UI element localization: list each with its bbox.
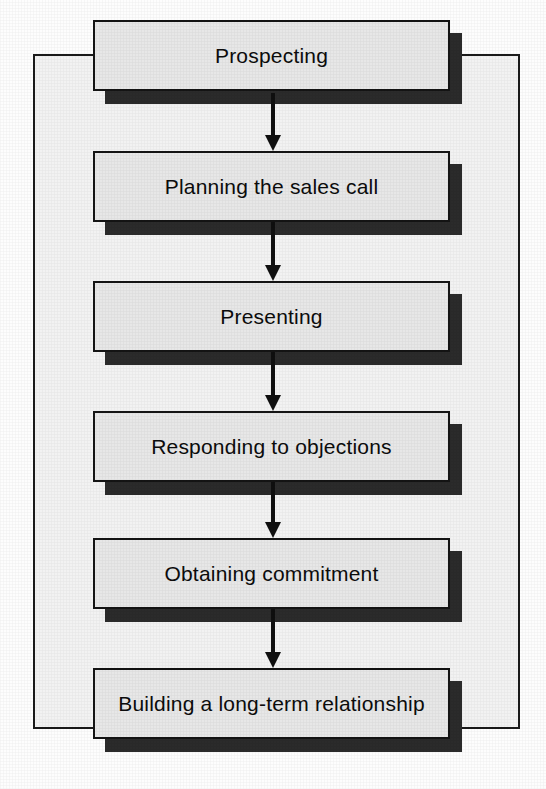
arrow-head — [265, 652, 281, 668]
down-arrow-icon — [265, 609, 281, 668]
step-label: Responding to objections — [151, 435, 392, 459]
arrow-shaft — [271, 482, 275, 524]
step-label: Planning the sales call — [165, 175, 379, 199]
process-step-responding-to-objections[interactable]: Responding to objections — [93, 411, 450, 482]
process-step-building-a-long-term-relationship[interactable]: Building a long-term relationship — [93, 668, 450, 739]
arrow-head — [265, 135, 281, 151]
step-box[interactable]: Responding to objections — [93, 411, 450, 482]
down-arrow-icon — [265, 93, 281, 151]
step-label: Building a long-term relationship — [118, 692, 425, 716]
step-label: Presenting — [220, 305, 322, 329]
arrow-head — [265, 522, 281, 538]
process-step-prospecting[interactable]: Prospecting — [93, 20, 450, 91]
step-box[interactable]: Building a long-term relationship — [93, 668, 450, 739]
arrow-shaft — [271, 352, 275, 397]
arrow-head — [265, 265, 281, 281]
down-arrow-icon — [265, 352, 281, 411]
process-step-planning-the-sales-call[interactable]: Planning the sales call — [93, 151, 450, 222]
arrow-shaft — [271, 93, 275, 137]
arrow-head — [265, 395, 281, 411]
down-arrow-icon — [265, 482, 281, 538]
process-step-obtaining-commitment[interactable]: Obtaining commitment — [93, 538, 450, 609]
step-label: Obtaining commitment — [164, 562, 378, 586]
step-label: Prospecting — [215, 44, 328, 68]
flowchart-page: Prospecting Planning the sales call Pres… — [0, 0, 546, 789]
step-box[interactable]: Obtaining commitment — [93, 538, 450, 609]
process-step-presenting[interactable]: Presenting — [93, 281, 450, 352]
arrow-shaft — [271, 222, 275, 267]
step-box[interactable]: Prospecting — [93, 20, 450, 91]
step-box[interactable]: Planning the sales call — [93, 151, 450, 222]
arrow-shaft — [271, 609, 275, 654]
down-arrow-icon — [265, 222, 281, 281]
step-box[interactable]: Presenting — [93, 281, 450, 352]
